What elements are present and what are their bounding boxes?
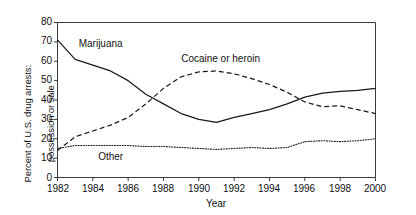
axes-frame <box>58 23 376 178</box>
axis-ticks <box>54 23 376 182</box>
data-series-lines <box>58 40 376 150</box>
line-chart-figure: Percent of U.S. drug arrests: possession… <box>0 0 416 215</box>
plot-area <box>0 0 416 215</box>
